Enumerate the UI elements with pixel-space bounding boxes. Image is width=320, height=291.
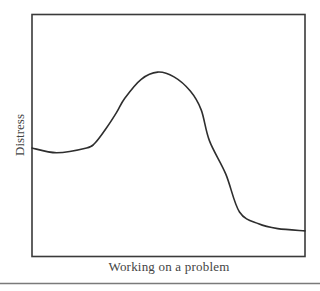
distress-curve bbox=[32, 72, 305, 231]
chart-canvas bbox=[0, 0, 320, 291]
x-axis-label: Working on a problem bbox=[32, 259, 306, 275]
y-axis-label: Distress bbox=[12, 114, 28, 156]
plot-frame bbox=[32, 15, 305, 257]
